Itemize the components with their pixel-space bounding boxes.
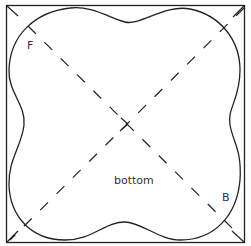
label-f: F [27, 39, 33, 52]
center-mark-arm [120, 124, 128, 131]
corner-tick-bottom-right [232, 231, 244, 242]
center-mark [121, 118, 128, 124]
outer-square [7, 6, 245, 243]
label-bottom: bottom [114, 174, 154, 187]
label-b: B [222, 191, 230, 204]
cushion-outline [9, 8, 240, 240]
corner-tick-top-left [7, 6, 18, 16]
fold-diagram: F bottom B [0, 0, 251, 246]
diagonal-fold-line-tl-br [28, 26, 234, 230]
corner-tick-top-right [233, 6, 244, 17]
corner-tick-bottom-left [7, 231, 18, 242]
